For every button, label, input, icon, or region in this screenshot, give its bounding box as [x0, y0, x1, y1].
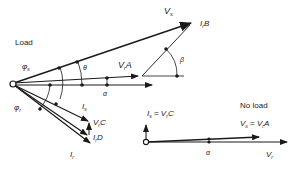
vs-phasor — [14, 23, 191, 83]
is-eq-vrc-label: Is = VrC — [147, 109, 174, 119]
beta-label: β — [179, 56, 184, 64]
no-load-dots — [207, 137, 210, 143]
load-label: Load — [15, 38, 33, 47]
ird-phasor — [14, 85, 87, 135]
phasor-diagram: Load Vs IrB VrA θ β α φs φr Is VrC IrD I… — [0, 0, 296, 171]
phi-s-arc — [60, 67, 63, 99]
ir-phasor — [14, 85, 90, 143]
no-load-alpha-label: α — [206, 149, 211, 156]
ird-label: IrD — [93, 133, 103, 143]
vrc-label: VrC — [93, 118, 106, 128]
no-load-vr-label: Vr — [266, 150, 273, 160]
vs-eq-vra-label: Vs = VrA — [240, 119, 269, 129]
theta-arc — [78, 62, 82, 84]
no-load-label: No load — [240, 101, 268, 110]
load-origin — [10, 81, 16, 87]
vra-label: VrA — [118, 60, 132, 71]
is-label: Is — [82, 102, 87, 112]
theta-label: θ — [83, 64, 87, 71]
no-load-vs-phasor — [147, 137, 259, 142]
phi-s-label: φs — [22, 62, 30, 72]
alpha-label: α — [103, 90, 108, 97]
load-dots — [38, 47, 179, 111]
irb-label: IrB — [200, 19, 210, 29]
beta-arc — [166, 49, 177, 76]
ir-label: Ir — [70, 150, 74, 160]
no-load-origin — [143, 139, 148, 144]
phi-r-label: φr — [14, 103, 21, 113]
vs-label: Vs — [164, 6, 173, 17]
is-phasor — [14, 85, 88, 121]
